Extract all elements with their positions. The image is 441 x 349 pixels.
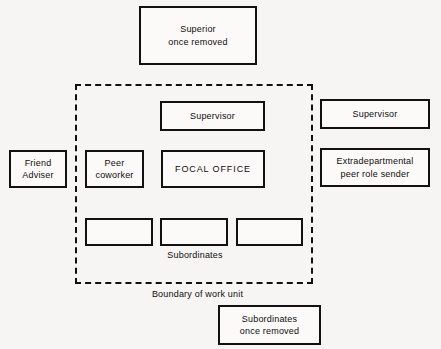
box-supervisor-outer-label: Supervisor [349, 108, 400, 120]
box-subordinates-once-removed: Subordinates once removed [218, 305, 321, 345]
box-subordinate-3 [236, 218, 303, 246]
box-focal-office-label: FOCAL OFFICE [172, 163, 254, 175]
box-subordinate-2 [160, 218, 228, 246]
box-supervisor-inner-label: Supervisor [187, 110, 238, 122]
box-extradepartmental-label: Extradepartmental peer role sender [334, 155, 417, 179]
box-friend-adviser: Friend Adviser [9, 150, 67, 188]
box-subordinate-1 [85, 218, 153, 246]
diagram-canvas: Superior once removed Supervisor Supervi… [0, 0, 441, 349]
box-peer-coworker-label: Peer coworker [92, 157, 136, 181]
box-supervisor-outer: Supervisor [320, 99, 430, 129]
box-friend-adviser-label: Friend Adviser [19, 157, 56, 181]
label-boundary-of-work-unit: Boundary of work unit [110, 288, 285, 300]
box-peer-coworker: Peer coworker [85, 150, 144, 188]
box-supervisor-inner: Supervisor [160, 101, 265, 131]
box-focal-office: FOCAL OFFICE [161, 150, 265, 188]
box-superior-once-removed: Superior once removed [139, 6, 257, 65]
box-superior-once-removed-label: Superior once removed [165, 23, 230, 47]
box-subordinates-once-removed-label: Subordinates once removed [237, 313, 302, 337]
label-subordinates: Subordinates [135, 249, 255, 261]
box-extradepartmental-peer-role-sender: Extradepartmental peer role sender [320, 148, 430, 187]
